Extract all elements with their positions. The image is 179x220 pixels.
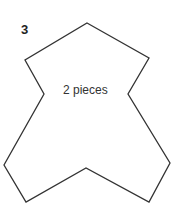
figure-number: 3 [21, 22, 28, 37]
pieces-label: 2 pieces [63, 83, 108, 97]
